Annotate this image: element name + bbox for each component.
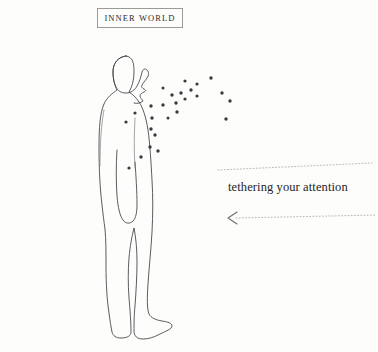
attention-dot	[127, 166, 130, 169]
attention-dot-cluster	[124, 76, 231, 169]
attention-dot	[124, 120, 127, 123]
attention-dot	[156, 149, 159, 152]
attention-dot	[220, 91, 223, 94]
attention-dot	[133, 111, 136, 114]
body-outline-path	[99, 56, 172, 339]
attention-dot	[149, 104, 152, 107]
tethering-caption: tethering your attention	[228, 180, 348, 195]
illustration-canvas: INNER WORLD tethering your attention	[0, 0, 378, 352]
head-profile-path	[113, 56, 149, 103]
inner-world-label: INNER WORLD	[97, 8, 183, 28]
attention-dot	[162, 87, 165, 90]
attention-dot	[183, 97, 186, 100]
attention-dot	[150, 116, 153, 119]
upper-guide	[218, 163, 372, 170]
attention-dot	[148, 145, 151, 148]
attention-dot	[149, 127, 152, 130]
chest-line-path	[134, 118, 135, 168]
attention-dot	[174, 101, 177, 104]
attention-dot	[175, 110, 178, 113]
attention-dot	[183, 79, 186, 82]
attention-dot	[195, 94, 198, 97]
attention-dot	[179, 91, 182, 94]
figure-artwork	[0, 0, 378, 352]
attention-dot	[195, 82, 198, 85]
attention-dot	[170, 93, 173, 96]
attention-dot	[189, 88, 192, 91]
arrow-guide	[236, 215, 376, 218]
attention-dot	[139, 155, 142, 158]
inner-world-label-text: INNER WORLD	[104, 13, 175, 23]
attention-dot	[209, 76, 212, 79]
arm-path	[116, 150, 137, 223]
human-figure	[99, 56, 172, 339]
attention-dot	[224, 117, 227, 120]
attention-dot	[153, 133, 156, 136]
attention-dot	[228, 99, 231, 102]
attention-dot	[161, 103, 164, 106]
attention-dot	[167, 117, 170, 120]
